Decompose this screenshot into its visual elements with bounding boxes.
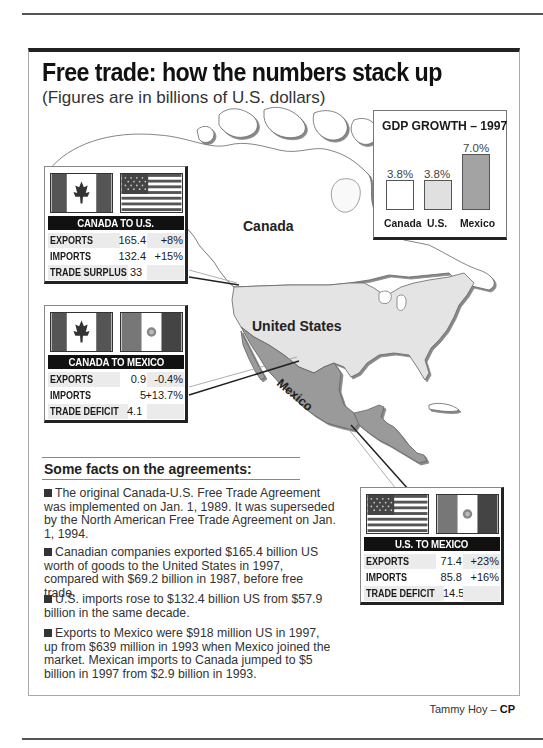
trade-row-exports: EXPORTS 0.9 -0.4% (48, 372, 184, 387)
bullet-icon (44, 548, 52, 556)
trade-row-trade-deficit: TRADE DEFICIT 4.1 (48, 404, 184, 419)
bullet-icon (44, 629, 52, 637)
fact-item: Exports to Mexico were $918 million US i… (44, 627, 336, 681)
trade-box-canada-mexico: CANADA TO MEXICO EXPORTS 0.9 -0.4% IMPOR… (44, 305, 188, 423)
gdp-value-mexico: 7.0% (456, 142, 496, 154)
map-label-united-states: United States (252, 318, 341, 334)
gdp-category-canada: Canada (384, 217, 421, 229)
fact-item: The original Canada-U.S. Free Trade Agre… (44, 487, 336, 541)
us-flag-icon (366, 494, 429, 534)
gdp-value-canada: 3.8% (380, 168, 420, 180)
gdp-value-us: 3.8% (417, 168, 457, 180)
trade-box-header: U.S. TO MEXICO (364, 537, 500, 551)
credit-line: Tammy Hoy – CP (429, 703, 515, 715)
mexico-flag-icon (436, 494, 499, 534)
flag-pair (50, 173, 183, 213)
page-title: Free trade: how the numbers stack up (42, 58, 442, 87)
gdp-bar-mexico (462, 154, 490, 210)
facts-top-rule (42, 457, 300, 458)
trade-box-us-mexico: U.S. TO MEXICO EXPORTS 71.4 +23% IMPORTS… (360, 487, 504, 605)
trade-row-imports: IMPORTS 85.8 +16% (364, 570, 500, 585)
us-flag-icon (120, 173, 183, 213)
central-america-region (354, 405, 427, 463)
gdp-growth-chart: GDP GROWTH – 1997 3.8% 3.8% 7.0% Canada … (373, 110, 507, 240)
facts-title: Some facts on the agreements: (44, 461, 252, 477)
mexico-flag-icon (120, 312, 183, 352)
fact-item: U.S. imports rose to $132.4 billion US f… (44, 593, 336, 620)
trade-row-imports: IMPORTS 5 +13.7% (48, 388, 184, 403)
trade-row-exports: EXPORTS 71.4 +23% (364, 554, 500, 569)
trade-box-header: CANADA TO MEXICO (48, 355, 184, 369)
gdp-chart-title: GDP GROWTH – 1997 (382, 118, 507, 133)
top-rule (22, 13, 543, 15)
trade-row-trade-surplus: TRADE SURPLUS 33 (48, 265, 184, 280)
bullet-icon (44, 595, 52, 603)
bullet-icon (44, 489, 52, 497)
gdp-bar-canada (386, 180, 414, 210)
trade-row-trade-deficit: TRADE DEFICIT 14.5 (364, 586, 500, 601)
facts-title-rule (42, 479, 300, 480)
canada-flag-icon (50, 312, 113, 352)
trade-box-header: CANADA TO U.S. (48, 216, 184, 230)
flag-pair (366, 494, 499, 534)
bottom-rule (22, 738, 543, 740)
trade-box-canada-us: CANADA TO U.S. EXPORTS 165.4 +8% IMPORTS… (44, 166, 188, 284)
flag-pair (50, 312, 183, 352)
trade-row-imports: IMPORTS 132.4 +15% (48, 249, 184, 264)
trade-row-exports: EXPORTS 165.4 +8% (48, 233, 184, 248)
gdp-bar-us (424, 180, 452, 210)
canada-flag-icon (50, 173, 113, 213)
gdp-category-mexico: Mexico (460, 217, 495, 229)
map-label-canada: Canada (243, 218, 294, 234)
gdp-category-us: U.S. (427, 217, 447, 229)
